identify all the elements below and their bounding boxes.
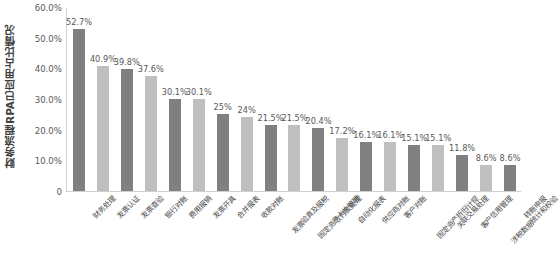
bar-group: 30.1% (163, 8, 187, 191)
bar-value-label: 30.1% (186, 87, 212, 97)
bar (360, 142, 372, 191)
y-axis-tick-label: 60.0% (35, 3, 62, 13)
y-axis-title-text: 财务流程RPA已应用占比情况 (5, 24, 16, 168)
bar-group: 25% (211, 8, 235, 191)
bar-group: 17.2% (330, 8, 354, 191)
bar-value-label: 39.8% (114, 57, 140, 67)
bar (312, 128, 324, 191)
bar-value-label: 37.6% (138, 64, 164, 74)
bar-group: 24% (235, 8, 259, 191)
bar-group: 8.6% (474, 8, 498, 191)
x-axis-category-label: 发票认证 (116, 195, 141, 220)
y-axis-tick-label: 10.0% (35, 156, 62, 166)
x-axis-category-label: 发票开具 (212, 195, 237, 220)
bar-value-label: 24% (237, 105, 255, 115)
bar-value-label: 21.5% (281, 113, 307, 123)
bar (336, 138, 348, 191)
bar-value-label: 17.2% (329, 126, 355, 136)
bar (265, 125, 277, 191)
y-axis-tick-label: 20.0% (35, 126, 62, 136)
bar-group: 21.5% (283, 8, 307, 191)
bar-group: 52.7% (67, 8, 91, 191)
bar (241, 117, 253, 191)
y-axis-tick-labels: 010.0%20.0%30.0%40.0%50.0%60.0% (20, 0, 65, 192)
bar-value-label: 52.7% (66, 17, 92, 27)
y-axis-tick-label: 40.0% (35, 64, 62, 74)
bar (145, 76, 157, 191)
bar-series: 52.7%40.9%39.8%37.6%30.1%30.1%25%24%21.5… (67, 8, 521, 191)
x-axis-line (66, 191, 521, 192)
plot-area: 52.7%40.9%39.8%37.6%30.1%30.1%25%24%21.5… (66, 8, 521, 192)
bar-value-label: 30.1% (162, 87, 188, 97)
x-axis-category-label: 发票查验 (140, 195, 165, 220)
bar (456, 155, 468, 191)
bar-value-label: 11.8% (449, 143, 475, 153)
bar (121, 69, 133, 191)
bar-group: 30.1% (187, 8, 211, 191)
x-axis-category-label: 费用报销 (188, 195, 213, 220)
bar-group: 8.6% (498, 8, 522, 191)
bar (288, 125, 300, 191)
y-axis-title: 财务流程RPA已应用占比情况 (0, 0, 20, 192)
bar-group: 11.8% (450, 8, 474, 191)
bar-group: 15.1% (426, 8, 450, 191)
bar (480, 165, 492, 191)
y-axis-tick-label: 50.0% (35, 34, 62, 44)
bar-value-label: 8.6% (500, 153, 521, 163)
bar (169, 99, 181, 191)
bar-group: 37.6% (139, 8, 163, 191)
bar-value-label: 15.1% (425, 133, 451, 143)
bar-value-label: 25% (214, 102, 232, 112)
bar-group: 20.4% (306, 8, 330, 191)
bar (408, 145, 420, 191)
bar-value-label: 20.4% (305, 116, 331, 126)
bar-group: 16.1% (378, 8, 402, 191)
bar-group: 16.1% (354, 8, 378, 191)
bar-value-label: 16.1% (353, 130, 379, 140)
bar-group: 40.9% (91, 8, 115, 191)
bar (73, 29, 85, 191)
bar-group: 39.8% (115, 8, 139, 191)
x-axis-category-labels: 财务处理发票认证发票查验银行对账费用报销发票开具合并报表收款对账发票验真及报税固… (66, 193, 521, 261)
bar-value-label: 15.1% (401, 133, 427, 143)
bar-group: 21.5% (259, 8, 283, 191)
bar (384, 142, 396, 191)
bar-group: 15.1% (402, 8, 426, 191)
bar (432, 145, 444, 191)
bar (504, 165, 516, 191)
bar (217, 114, 229, 191)
y-axis-tick-label: 0 (57, 187, 62, 197)
y-axis-tick-label: 30.0% (35, 95, 62, 105)
x-axis-category-label: 银行对账 (164, 195, 189, 220)
x-axis-category-label: 财务处理 (92, 195, 117, 220)
x-axis-category-label: 收款对账 (260, 195, 285, 220)
bar-value-label: 21.5% (258, 113, 284, 123)
bar (97, 66, 109, 191)
bar-value-label: 40.9% (90, 54, 116, 64)
x-axis-category-label: 合并报表 (236, 195, 261, 220)
bar-value-label: 16.1% (377, 130, 403, 140)
bar (193, 99, 205, 191)
bar-value-label: 8.6% (476, 153, 497, 163)
